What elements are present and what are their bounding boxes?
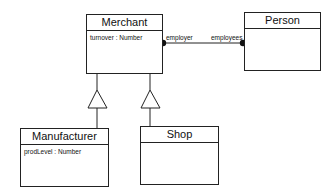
- generalization-triangle-icon: [88, 90, 107, 108]
- class-name: Shop: [141, 127, 218, 143]
- class-attributes: [245, 29, 320, 35]
- class-attributes: prodLevel : Number: [21, 145, 108, 159]
- class-manufacturer[interactable]: Manufacturer prodLevel : Number: [20, 128, 109, 187]
- role-label-employees: employees: [211, 34, 242, 42]
- class-attributes: turnover : Number: [87, 31, 162, 45]
- class-name: Merchant: [87, 15, 162, 31]
- attribute: turnover : Number: [90, 34, 159, 42]
- role-label-employer: employer: [166, 34, 193, 42]
- class-name: Manufacturer: [21, 129, 108, 145]
- attribute: prodLevel : Number: [24, 148, 105, 156]
- class-attributes: [141, 143, 218, 149]
- class-person[interactable]: Person: [244, 12, 321, 71]
- generalization-triangle-icon: [141, 90, 160, 108]
- class-name: Person: [245, 13, 320, 29]
- class-shop[interactable]: Shop: [140, 126, 219, 185]
- class-merchant[interactable]: Merchant turnover : Number: [86, 14, 163, 74]
